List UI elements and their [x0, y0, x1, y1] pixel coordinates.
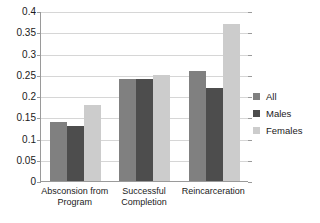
legend-swatch-icon [253, 93, 260, 100]
legend-label: Females [266, 126, 302, 136]
bar-group [41, 12, 110, 181]
bar-females [223, 24, 240, 181]
chart-legend: AllMalesFemales [253, 88, 302, 139]
y-axis-tick-right [248, 182, 252, 183]
bar-all [189, 71, 206, 182]
y-axis-tick-label: 0.4 [22, 7, 36, 17]
x-axis-category-label: Successful Completion [109, 186, 178, 208]
bar-all [50, 122, 67, 182]
y-axis-tick-label: 0.35 [17, 28, 36, 38]
y-axis-tick-label: 0.25 [17, 71, 36, 81]
y-axis-tick-label: 0 [30, 177, 36, 187]
legend-item-females: Females [253, 122, 302, 139]
legend-label: All [266, 92, 277, 102]
legend-swatch-icon [253, 110, 260, 117]
legend-label: Males [266, 109, 291, 119]
bar-females [153, 75, 170, 181]
legend-item-males: Males [253, 105, 302, 122]
bar-group [180, 12, 249, 181]
bar-males [136, 79, 153, 181]
y-axis-tick-label: 0.15 [17, 113, 36, 123]
y-axis-tick-label: 0.3 [22, 50, 36, 60]
x-axis-category-label: Reincarceration [179, 186, 248, 197]
y-axis-tick-label: 0.05 [17, 156, 36, 166]
bar-females [84, 105, 101, 182]
bar-all [119, 79, 136, 181]
bar-males [206, 88, 223, 182]
bar-group [110, 12, 179, 181]
y-axis-tick-label: 0.2 [22, 92, 36, 102]
legend-swatch-icon [253, 127, 260, 134]
bar-chart: 00.050.10.150.20.250.30.350.4 AllMalesFe… [0, 0, 320, 223]
plot-area: 00.050.10.150.20.250.30.350.4 [40, 12, 248, 182]
legend-item-all: All [253, 88, 302, 105]
y-axis-tick-label: 0.1 [22, 135, 36, 145]
bar-males [67, 126, 84, 181]
x-axis-category-label: Absconsion from Program [40, 186, 109, 208]
y-axis-tick [37, 182, 41, 183]
